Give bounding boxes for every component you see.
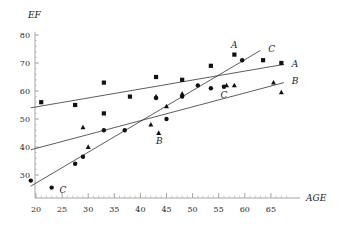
data-point-circle	[73, 162, 77, 166]
data-point-circle	[209, 86, 213, 90]
x-tick-label: 65	[266, 205, 276, 214]
x-tick-label: 40	[135, 205, 145, 214]
x-tick-label: 20	[31, 205, 41, 214]
data-point-square	[232, 53, 236, 57]
scatter-chart: 304050607080 EF 20253035404550556065 AGE…	[0, 0, 340, 225]
y-tick-label: 30	[20, 171, 30, 180]
series-labels: ABBCC	[59, 44, 298, 195]
data-point-square	[279, 61, 283, 65]
data-point-triangle	[148, 122, 153, 127]
y-tick-label: 40	[20, 143, 30, 152]
data-point-circle	[123, 128, 127, 132]
data-point-circle	[154, 96, 158, 100]
point-annotations: AC	[220, 40, 238, 100]
data-point-circle	[196, 83, 200, 87]
data-point-square	[209, 64, 213, 68]
y-tick-label: 60	[20, 87, 30, 96]
series-label-c: C	[268, 44, 275, 54]
y-tick-label: 70	[20, 59, 30, 68]
series-inner-label-c: C	[59, 185, 66, 195]
data-point-square	[102, 111, 106, 115]
series-label-a: A	[291, 59, 299, 69]
series-inner-label-b: B	[155, 136, 163, 146]
data-point-square	[154, 75, 158, 79]
data-point-triangle	[156, 130, 161, 135]
data-point-circle	[49, 185, 53, 189]
y-axis-tick-labels: 304050607080	[20, 31, 30, 180]
x-tick-label: 25	[57, 205, 67, 214]
x-tick-label: 30	[83, 205, 93, 214]
annotation-c: C	[220, 90, 227, 100]
y-axis-ticks	[35, 35, 39, 175]
chart-canvas: 304050607080 EF 20253035404550556065 AGE…	[0, 0, 340, 225]
data-point-circle	[81, 155, 85, 159]
regression-line-c	[31, 50, 261, 186]
series-label-b: B	[291, 76, 299, 86]
data-point-circle	[164, 117, 168, 121]
data-point-circle	[102, 128, 106, 132]
x-tick-label: 45	[161, 205, 171, 214]
data-point-square	[39, 100, 43, 104]
data-point-circle	[222, 85, 226, 89]
x-axis-title: AGE	[305, 193, 327, 203]
data-point-square	[102, 81, 106, 85]
data-point-square	[180, 78, 184, 82]
x-axis-tick-labels: 20253035404550556065	[31, 205, 276, 214]
y-axis-title: EF	[27, 10, 42, 20]
x-tick-label: 55	[214, 205, 224, 214]
regression-lines	[31, 50, 284, 186]
data-point-circle	[180, 94, 184, 98]
data-point-square	[128, 95, 132, 99]
data-point-triangle	[271, 80, 276, 85]
data-point-triangle	[86, 144, 91, 149]
x-tick-label: 50	[188, 205, 198, 214]
y-tick-label: 80	[20, 31, 30, 40]
data-point-markers	[29, 53, 284, 190]
data-point-triangle	[232, 83, 237, 88]
x-axis-ticks	[36, 193, 287, 198]
data-point-circle	[29, 178, 33, 182]
regression-line-a	[31, 64, 284, 107]
data-point-triangle	[279, 90, 284, 95]
x-tick-label: 35	[109, 205, 119, 214]
data-point-square	[261, 58, 265, 62]
annotation-a: A	[230, 40, 238, 50]
y-tick-label: 50	[20, 115, 30, 124]
y-axis: 304050607080 EF	[20, 10, 42, 198]
data-point-circle	[240, 58, 244, 62]
data-point-triangle	[164, 104, 169, 109]
data-point-square	[73, 103, 77, 107]
data-point-triangle	[80, 125, 85, 130]
x-tick-label: 60	[240, 205, 250, 214]
x-axis: 20253035404550556065 AGE	[31, 193, 327, 214]
